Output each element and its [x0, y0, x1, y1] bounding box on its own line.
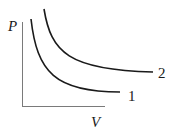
pv-diagram: P V 1 2 [0, 0, 177, 134]
isotherm-curve-1 [31, 19, 120, 92]
x-axis-label: V [91, 114, 102, 130]
curve-1-label: 1 [128, 88, 136, 104]
curve-2-label: 2 [158, 65, 166, 81]
y-axis-label: P [7, 18, 17, 34]
isotherm-curve-2 [44, 9, 153, 72]
